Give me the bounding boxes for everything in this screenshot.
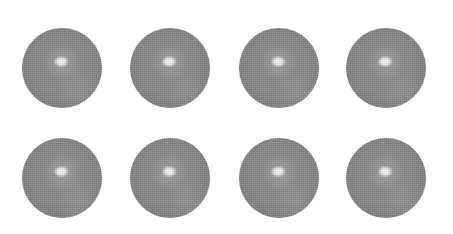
sphere-grid-scene — [0, 0, 453, 234]
sphere-r2-c3 — [239, 138, 319, 218]
sphere-r1-c4 — [346, 28, 426, 108]
sphere-r2-c4 — [346, 138, 426, 218]
sphere-r1-c1 — [22, 28, 102, 108]
sphere-r2-c2 — [130, 138, 210, 218]
sphere-r1-c2 — [130, 28, 210, 108]
sphere-r1-c3 — [239, 28, 319, 108]
sphere-r2-c1 — [22, 138, 102, 218]
